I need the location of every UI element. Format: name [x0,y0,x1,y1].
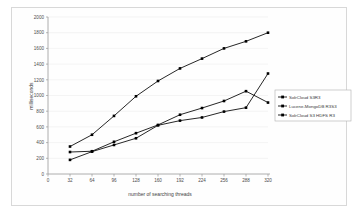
legend-swatch-marker [281,114,284,117]
data-point [113,141,116,144]
data-point [69,145,72,148]
data-point [223,100,226,103]
data-point [157,124,160,127]
x-tick-label: 256 [220,178,228,183]
y-tick-label: 800 [36,109,44,114]
x-tick-label: 160 [154,178,162,183]
series-3 [69,90,270,153]
data-point [201,116,204,119]
data-point [113,144,116,147]
y-tick-label: 600 [36,125,44,130]
x-axis-ticks: 0326496128160192224256288320 [47,174,273,183]
y-axis-ticks: 0200400600800100012001400160018002000 [34,15,48,177]
chart-legend: SolrCloud S3R3Lucene-MongoDB R3S3SolrClo… [275,90,351,121]
x-tick-label: 320 [264,178,272,183]
x-tick-label: 96 [111,178,117,183]
y-tick-label: 1600 [34,46,45,51]
data-point [179,67,182,70]
chart-figure: 0200400600800100012001400160018002000 03… [0,0,360,215]
line-chart: 0200400600800100012001400160018002000 03… [0,0,360,215]
x-tick-label: 224 [198,178,206,183]
y-tick-label: 1200 [34,78,45,83]
data-series-group [69,31,270,161]
series-1 [69,31,270,147]
gridlines [48,17,268,158]
x-tick-label: 192 [176,178,184,183]
data-point [69,159,72,162]
legend-label: SolrCloud S3R3 [289,95,321,100]
data-point [201,107,204,110]
data-point [91,133,94,136]
data-point [135,95,138,98]
data-point [223,110,226,113]
data-point [223,47,226,50]
x-tick-label: 32 [67,178,73,183]
data-point [135,132,138,135]
data-point [135,137,138,140]
y-tick-label: 1800 [34,30,45,35]
y-tick-label: 1400 [34,62,45,67]
data-point [179,113,182,116]
y-tick-label: 200 [36,156,44,161]
y-tick-label: 0 [41,172,44,177]
data-point [245,90,248,93]
data-point [157,80,160,83]
data-point [245,106,248,109]
x-tick-label: 128 [132,178,140,183]
data-point [69,151,72,154]
x-tick-label: 64 [89,178,95,183]
y-tick-label: 1000 [34,93,45,98]
y-tick-label: 2000 [34,15,45,20]
legend-label: SolrCloud S3 HDFS R3 [289,113,335,118]
data-point [113,115,116,118]
data-point [267,101,270,104]
series-2 [69,72,270,161]
plot-area-wrapper: 0200400600800100012001400160018002000 03… [0,0,360,215]
data-point [91,150,94,153]
legend-swatch-marker [281,96,284,99]
x-tick-label: 288 [242,178,250,183]
y-axis-label: milliseconds [28,82,34,110]
data-point [201,57,204,60]
data-point [245,40,248,43]
x-tick-label: 0 [47,178,50,183]
data-point [179,119,182,122]
legend-swatch-marker [281,105,284,108]
y-tick-label: 400 [36,140,44,145]
data-point [267,72,270,75]
data-point [267,31,270,34]
x-axis-label: number of searching threads [128,191,192,197]
legend-label: Lucene-MongoDB R3S3 [289,104,337,109]
